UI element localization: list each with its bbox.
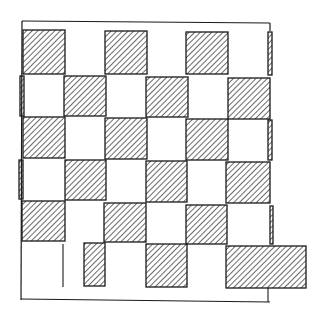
- hatched-squares: [19, 30, 306, 288]
- hatched-square: [19, 160, 23, 199]
- hatched-square: [186, 205, 227, 244]
- hatched-square: [146, 161, 187, 202]
- border-line: [21, 299, 270, 302]
- hatched-square: [226, 162, 270, 203]
- hatched-square: [228, 78, 270, 119]
- hatched-square: [268, 120, 272, 160]
- hatched-square: [65, 160, 106, 200]
- hatched-square: [105, 31, 147, 74]
- border-line: [22, 21, 270, 23]
- hatched-square: [105, 118, 147, 159]
- hatched-square: [146, 77, 188, 117]
- hatched-square: [23, 117, 65, 158]
- hatched-square: [22, 201, 65, 241]
- hatched-square: [23, 30, 65, 74]
- hatched-square: [270, 206, 273, 244]
- hatched-square: [146, 244, 187, 287]
- hatched-square: [186, 119, 228, 160]
- hatched-square: [226, 246, 306, 288]
- hatched-square: [84, 243, 105, 286]
- hatched-square: [64, 76, 106, 116]
- hatched-square: [268, 32, 272, 75]
- hatched-square: [20, 76, 24, 116]
- hatched-square: [186, 32, 228, 74]
- checkerboard-sketch: [0, 0, 325, 319]
- hatched-square: [104, 203, 146, 242]
